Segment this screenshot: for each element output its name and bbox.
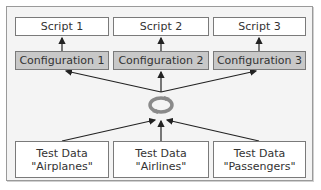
cycle-icon bbox=[150, 96, 172, 114]
test-data-1-title: Test Data bbox=[36, 147, 87, 160]
test-data-passengers-box: Test Data "Passengers" bbox=[213, 141, 306, 178]
test-data-3-name: "Passengers" bbox=[223, 160, 295, 173]
script-2-box: Script 2 bbox=[113, 17, 209, 36]
test-data-1-name: "Airplanes" bbox=[31, 160, 92, 173]
script-1-box: Script 1 bbox=[15, 17, 109, 36]
configuration-3-box: Configuration 3 bbox=[213, 51, 306, 70]
test-data-airplanes-box: Test Data "Airplanes" bbox=[15, 141, 109, 178]
script-2-label: Script 2 bbox=[140, 20, 182, 33]
script-3-box: Script 3 bbox=[213, 17, 306, 36]
configuration-1-box: Configuration 1 bbox=[15, 51, 109, 70]
configuration-2-box: Configuration 2 bbox=[113, 51, 209, 70]
test-data-3-title: Test Data bbox=[234, 147, 285, 160]
test-data-2-title: Test Data bbox=[135, 147, 186, 160]
configuration-1-label: Configuration 1 bbox=[19, 54, 104, 67]
configuration-2-label: Configuration 2 bbox=[118, 54, 203, 67]
script-1-label: Script 1 bbox=[41, 20, 83, 33]
test-data-2-name: "Airlines" bbox=[136, 160, 187, 173]
script-3-label: Script 3 bbox=[238, 20, 280, 33]
configuration-3-label: Configuration 3 bbox=[217, 54, 302, 67]
test-data-airlines-box: Test Data "Airlines" bbox=[113, 141, 209, 178]
